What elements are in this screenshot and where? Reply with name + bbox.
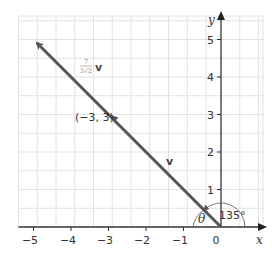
angle-135-label: 135° [219,209,246,222]
x-tick-label: 0 [213,234,220,247]
fraction-denominator: 3√2 [80,67,92,75]
theta-label: θ [198,212,206,226]
scaled-vector-label: 7 3√2 v [80,58,103,75]
vectors [37,43,221,227]
y-tick-label: 4 [207,71,214,84]
y-tick-label: 2 [207,146,214,159]
x-tick-label: −4 [60,234,76,247]
fraction-numerator: 7 [84,58,88,66]
y-axis-label: y [207,13,215,27]
point-label: (−3, 3) [75,111,114,124]
scaled-vector-v: v [95,61,103,74]
coordinate-diagram: −5 −4 −3 −2 −1 0 1 2 3 4 5 x y (−3, 3) v… [0,0,272,253]
y-tick-label: 5 [207,34,214,47]
x-tick-label: −2 [134,234,150,247]
x-tick-label: −3 [97,234,113,247]
vector-v-label: v [166,155,174,168]
scaled-vector [37,43,221,227]
x-tick-label: −1 [172,234,188,247]
grid [19,16,264,227]
x-tick-label: −5 [22,234,38,247]
y-tick-label: 1 [207,184,214,197]
x-axis-label: x [256,233,263,247]
y-tick-label: 3 [207,109,214,122]
